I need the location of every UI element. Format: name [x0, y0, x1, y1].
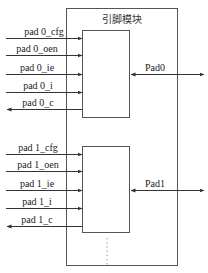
pad0-cfg-label: pad 0_cfg: [24, 26, 64, 37]
pad1-ie-label: pad 1_ie: [20, 178, 55, 189]
pad1-label: Pad1: [145, 178, 165, 189]
pad0-ie-label: pad 0_ie: [20, 62, 55, 73]
pad1-oen-label: pad 1_oen: [17, 159, 58, 170]
pad0-i-label: pad 0_i: [23, 80, 53, 91]
pad1-block: [83, 147, 130, 233]
pad1-c-label: pad 1_c: [21, 214, 53, 225]
pad0-c-label: pad 0_c: [22, 97, 54, 108]
pin-module-diagram: 引脚模块 pad 0_cfg pad 0_oen pad 0_ie pad 0_…: [0, 0, 208, 273]
pad0-block: [83, 31, 130, 118]
pad1-i-label: pad 1_i: [22, 196, 52, 207]
pad0-label: Pad0: [145, 62, 165, 73]
module-title: 引脚模块: [102, 13, 142, 25]
pad0-oen-label: pad 0_oen: [16, 43, 57, 54]
pad1-cfg-label: pad 1_cfg: [18, 142, 58, 153]
